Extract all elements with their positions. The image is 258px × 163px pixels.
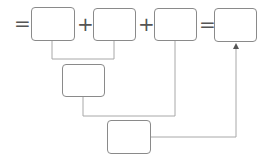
input-box-2[interactable] bbox=[93, 8, 136, 41]
total-box[interactable] bbox=[107, 120, 151, 154]
input-box-1[interactable] bbox=[31, 7, 75, 41]
arrow-head-icon bbox=[233, 43, 239, 49]
plus-sign-2: + bbox=[138, 14, 152, 34]
leading-equals-sign: = bbox=[14, 13, 28, 33]
bracket-connector bbox=[52, 41, 114, 59]
input-box-3[interactable] bbox=[154, 8, 197, 41]
sum-box-1-2[interactable] bbox=[62, 64, 105, 97]
total-to-result-connector bbox=[150, 48, 236, 137]
result-box[interactable] bbox=[214, 8, 257, 42]
equals-sign: = bbox=[199, 14, 213, 34]
plus-sign-1: + bbox=[77, 14, 91, 34]
